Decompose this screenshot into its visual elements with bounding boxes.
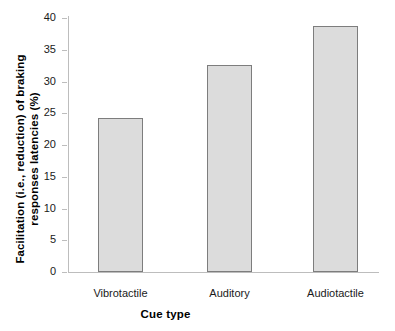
bar-auditory	[207, 65, 252, 272]
x-axis-tick-label-vibrotactile: Vibrotactile	[66, 287, 176, 299]
y-axis-tick-label: 0	[30, 266, 56, 277]
y-axis-tick-label: 25	[30, 107, 56, 118]
y-axis-tick-label: 10	[30, 203, 56, 214]
y-axis-tick	[62, 82, 67, 83]
y-axis-tick	[62, 272, 67, 273]
y-axis-title-line-1: Facilitation (i.e., reduction) of brakin…	[14, 14, 28, 304]
y-axis-tick-label-text: 25	[30, 107, 56, 118]
plot-area	[68, 18, 378, 272]
y-axis-tick	[62, 240, 67, 241]
y-axis-tick-label: 5	[30, 234, 56, 245]
x-axis-line	[68, 272, 379, 273]
y-axis-title: Facilitation (i.e., reduction) of brakin…	[14, 14, 42, 304]
y-axis-tick-label-text: 20	[30, 139, 56, 150]
y-axis-tick-label-text: 35	[30, 44, 56, 55]
y-axis-tick-label-text: 0	[30, 266, 56, 277]
y-axis-title-line-2: responses latencies (%)	[28, 14, 42, 304]
y-axis-tick-label: 30	[30, 76, 56, 87]
y-axis-tick-label-text: 10	[30, 203, 56, 214]
y-axis-tick-label-text: 40	[30, 12, 56, 23]
x-axis-title-text: Cue type	[140, 308, 190, 320]
x-axis-tick-label-auditory: Auditory	[175, 287, 285, 299]
y-axis-tick	[62, 18, 67, 19]
y-axis-tick-label: 20	[30, 139, 56, 150]
y-axis-tick-label-text: 30	[30, 76, 56, 87]
y-axis-tick-label: 40	[30, 12, 56, 23]
y-axis-tick	[62, 145, 67, 146]
y-axis-tick-label-text: 5	[30, 234, 56, 245]
x-axis-title: Cue type	[0, 308, 395, 320]
bar-vibrotactile	[98, 118, 143, 272]
y-axis-tick	[62, 177, 67, 178]
y-axis-tick-label: 15	[30, 171, 56, 182]
y-axis-tick	[62, 50, 67, 51]
bar-chart-figure: Facilitation (i.e., reduction) of brakin…	[0, 0, 395, 331]
y-axis-tick-label: 35	[30, 44, 56, 55]
y-axis-tick	[62, 209, 67, 210]
y-axis-tick-label-text: 15	[30, 171, 56, 182]
y-axis-tick	[62, 113, 67, 114]
x-axis-tick-label-audiotactile: Audiotactile	[281, 287, 391, 299]
bar-audiotactile	[313, 26, 358, 272]
